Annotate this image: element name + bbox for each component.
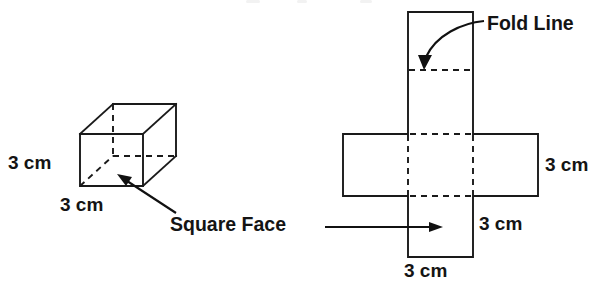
cube-drawing	[80, 104, 176, 186]
square-face-arrow-to-cube	[117, 174, 176, 213]
cube-top-left-edge	[80, 104, 113, 134]
cube-bottom-right-edge	[143, 156, 176, 186]
net-middle-dimension-label: 3 cm	[479, 213, 522, 235]
figure-canvas	[0, 0, 613, 299]
cube-height-label: 3 cm	[8, 152, 51, 174]
cube-top-right-edge	[143, 104, 176, 134]
net-right-dimension-label: 3 cm	[545, 154, 588, 176]
net-bottom-dimension-label: 3 cm	[404, 260, 447, 282]
fold-line-callout: Fold Line	[487, 12, 574, 35]
cube-width-label: 3 cm	[60, 194, 103, 216]
geometry-figure: 3 cm 3 cm Square Face Fold Line 3 cm 3 c…	[0, 0, 613, 299]
square-face-callout: Square Face	[170, 213, 286, 236]
